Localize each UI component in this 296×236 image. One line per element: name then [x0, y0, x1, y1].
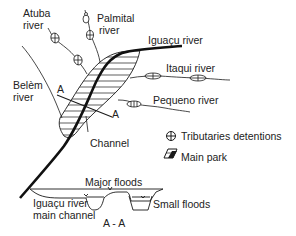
legend-main-park-label: Main park: [181, 151, 227, 163]
detention-palmital-1: [83, 13, 89, 24]
cross-section-title: A - A: [103, 217, 125, 229]
main-park-icon: [164, 149, 177, 158]
channel-label: Channel: [90, 137, 129, 149]
major-floods-label: Major floods: [85, 176, 142, 188]
tributary-detention-icon: [167, 132, 176, 141]
palmital-label-line1: Palmital: [97, 12, 134, 24]
palmital-label-line2: river: [97, 24, 134, 36]
itaqui-river-label: Itaqui river: [166, 62, 215, 74]
atuba-river-label: Atuba river: [23, 7, 50, 31]
iguacu-river-label: Iguaçu river: [148, 34, 203, 46]
belem-label-line1: Belèm: [13, 79, 43, 91]
small-floods-label: Small floods: [153, 198, 210, 210]
detention-itaqui-1: [145, 73, 161, 79]
belem-label-line2: river: [13, 91, 43, 103]
main-channel-line2: main channel: [33, 209, 95, 221]
main-channel-line1: Iguaçu river: [33, 197, 95, 209]
atuba-label-line2: river: [23, 19, 50, 31]
belem-river-label: Belèm river: [13, 79, 43, 103]
palmital-river-label: Palmital river: [97, 12, 134, 36]
main-channel-label: Iguaçu river main channel: [33, 197, 95, 221]
pequeno-river-label: Pequeno river: [153, 94, 218, 106]
section-marker-a-bottom: A: [112, 108, 119, 120]
detention-pequeno: [127, 101, 141, 107]
detention-itaqui-2: [190, 75, 206, 81]
atuba-label-line1: Atuba: [23, 7, 50, 19]
section-marker-a-top: A: [57, 83, 64, 95]
main-park-area: [59, 50, 140, 138]
legend-tributaries-label: Tributaries detentions: [181, 130, 282, 142]
flood-control-diagram: Atuba river Palmital river Iguaçu river …: [0, 0, 296, 236]
detention-palmital-2: [87, 31, 94, 40]
